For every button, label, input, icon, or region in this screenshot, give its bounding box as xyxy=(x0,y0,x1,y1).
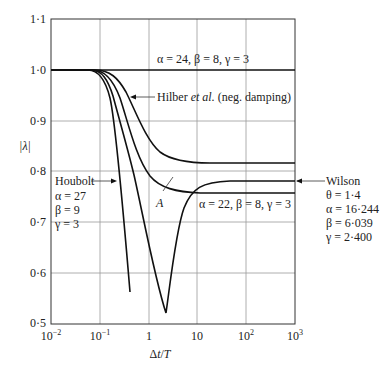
curve-wilson xyxy=(51,70,295,313)
label-wilson: Wilson xyxy=(326,174,360,188)
x-tick-labels: 10−2 10−1 1 10 102 103 xyxy=(41,328,303,343)
y-axis-title: |λ| xyxy=(19,139,31,153)
arrowhead-icon xyxy=(296,179,302,184)
stability-chart: 1·1 1·0 0·9 0·8 0·7 0·6 0·5 10−2 10−1 1 … xyxy=(0,0,392,371)
label-houbolt-gamma: γ = 3 xyxy=(54,217,79,231)
label-alpha24: α = 24, β = 8, γ = 3 xyxy=(157,52,249,66)
y-tick: 0·7 xyxy=(30,215,46,229)
y-tick-labels: 1·1 1·0 0·9 0·8 0·7 0·6 0·5 xyxy=(30,12,46,330)
curves xyxy=(51,70,295,313)
y-tick: 0·9 xyxy=(30,114,46,128)
label-a: A xyxy=(155,196,164,210)
label-wilson-alpha: α = 16·244 xyxy=(326,202,379,216)
y-tick: 0·8 xyxy=(30,164,46,178)
label-wilson-theta: θ = 1·4 xyxy=(326,188,361,202)
x-tick: 102 xyxy=(238,328,254,343)
label-hilber: Hilber et al. (neg. damping) xyxy=(157,90,291,104)
y-tick: 1·0 xyxy=(30,63,46,77)
x-tick: 103 xyxy=(287,328,303,343)
x-tick: 10 xyxy=(191,329,203,343)
label-wilson-gamma: γ = 2·400 xyxy=(325,230,372,244)
arrowhead-icon xyxy=(111,179,117,184)
y-tick: 0·6 xyxy=(30,266,46,280)
y-tick: 0·5 xyxy=(30,316,46,330)
label-houbolt-beta: β = 9 xyxy=(55,203,80,217)
arrowhead-icon xyxy=(130,95,136,100)
x-tick: 10−1 xyxy=(90,328,111,343)
x-tick: 1 xyxy=(146,329,152,343)
y-tick: 1·1 xyxy=(30,12,46,26)
label-houbolt: Houbolt xyxy=(55,174,95,188)
x-tick: 10−2 xyxy=(41,328,62,343)
curve-hilber xyxy=(51,70,295,163)
x-axis-title: Δt/T xyxy=(149,347,171,361)
label-houbolt-alpha: α = 27 xyxy=(55,189,86,203)
label-alpha22: α = 22, β = 8, γ = 3 xyxy=(199,197,291,211)
label-wilson-beta: β = 6·039 xyxy=(326,216,373,230)
